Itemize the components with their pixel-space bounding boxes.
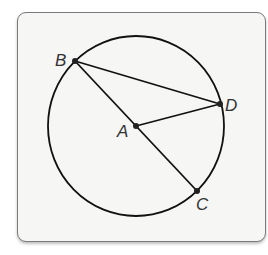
point-b-dot: [72, 58, 78, 64]
circle-diagram: A B C D: [0, 0, 268, 255]
point-c-dot: [194, 188, 200, 194]
point-d-dot: [217, 101, 223, 107]
label-a: A: [116, 122, 128, 141]
label-b: B: [55, 51, 66, 70]
point-a-dot: [133, 123, 139, 129]
label-d: D: [225, 96, 237, 115]
radius-ad: [136, 104, 220, 126]
chord-bd: [75, 61, 220, 104]
label-c: C: [196, 195, 209, 214]
